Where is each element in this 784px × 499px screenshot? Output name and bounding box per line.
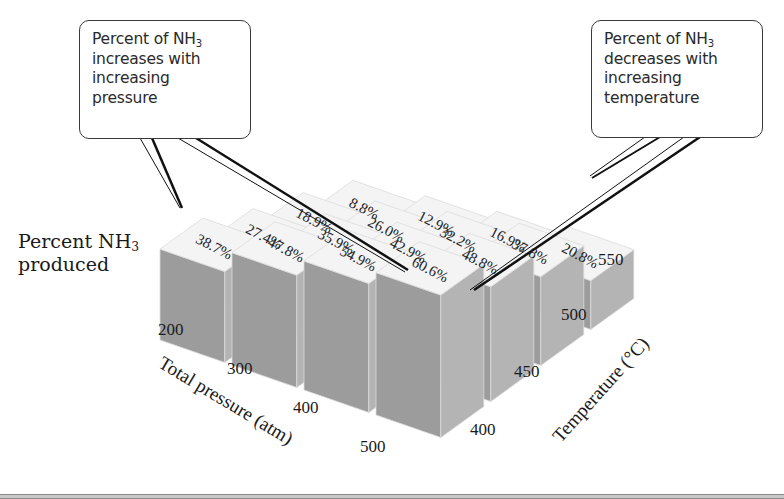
callout-line: increasing (604, 69, 752, 89)
bar-front-face (376, 273, 441, 438)
callout-line: increasing (92, 69, 240, 89)
leader-line (140, 138, 180, 208)
y-tick: 550 (598, 250, 624, 270)
bar-front-face (304, 261, 369, 413)
callout-line: pressure (92, 89, 240, 109)
leader-line (590, 137, 645, 176)
x-tick: 300 (227, 359, 253, 379)
callout-line: Percent of NH3 (604, 30, 752, 50)
chart-stage: 8.8%12.9%16.9%20.8%18.9%26.0%32.2%37.8%2… (0, 0, 784, 499)
callout-line: Percent of NH3 (92, 30, 240, 50)
callout-line: increases with (92, 50, 240, 70)
x-tick: 200 (158, 320, 184, 340)
leader-line (152, 138, 182, 208)
y-tick: 450 (514, 362, 540, 382)
y-tick: 400 (470, 420, 496, 440)
z-axis-label: Percent NH3 produced (18, 230, 139, 276)
callout-temperature: Percent of NH3 decreases with increasing… (591, 20, 763, 138)
callout-pressure: Percent of NH3 increases with increasing… (79, 20, 251, 139)
callout-line: temperature (604, 89, 752, 109)
callout-line: decreases with (604, 50, 752, 70)
y-tick: 500 (561, 305, 587, 325)
x-tick: 500 (360, 437, 386, 457)
bottom-rule (0, 494, 784, 499)
x-tick: 400 (293, 398, 319, 418)
